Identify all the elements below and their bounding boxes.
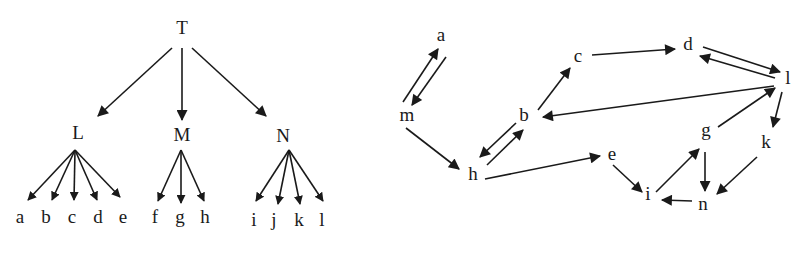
graph-edge-h-to-e	[485, 156, 600, 179]
graph-node-n: n	[698, 193, 708, 214]
tree-edge-arrow	[181, 150, 204, 201]
diagram-canvas: TLMNabcdefghijkl amhbcdlgkein	[0, 0, 799, 255]
graph-node-l: l	[785, 67, 790, 88]
tree-node-i: i	[251, 209, 256, 230]
graph-edge-e-to-i	[613, 165, 642, 192]
graph-edge-g-to-l	[718, 88, 775, 127]
graph-node-g: g	[701, 119, 711, 140]
graph-node-e: e	[608, 143, 616, 164]
tree-node-e: e	[119, 206, 127, 227]
tree-node-h: h	[200, 206, 210, 227]
graph-edge-b-to-h	[480, 123, 516, 157]
tree-node-b: b	[41, 206, 51, 227]
graph-node-k: k	[761, 131, 771, 152]
tree-edge-arrow	[52, 150, 75, 200]
tree-node-l: l	[319, 209, 324, 230]
tree-node-c: c	[68, 206, 76, 227]
graph-edge-m-to-h	[406, 128, 459, 169]
tree-node-d: d	[93, 206, 103, 227]
tree-node-k: k	[294, 209, 304, 230]
tree-node-a: a	[16, 206, 25, 227]
tree-node-M: M	[174, 124, 191, 145]
tree-node-g: g	[175, 206, 185, 227]
tree-node-T: T	[176, 17, 188, 38]
graph-edge-k-to-n	[717, 157, 757, 194]
graph-edge-b-to-c	[538, 68, 570, 110]
tree-edge-arrow	[192, 48, 266, 116]
graph-node-m: m	[400, 104, 415, 125]
graph-edge-h-to-b	[487, 130, 523, 165]
tree-edge-arrow	[75, 150, 120, 197]
graph-edge-c-to-d	[592, 49, 675, 55]
tree-node-L: L	[72, 122, 84, 143]
tree-edge-arrow	[75, 150, 97, 200]
tree-node-f: f	[152, 206, 159, 227]
tree-edge-arrow	[98, 48, 172, 116]
graph-node-a: a	[437, 24, 446, 45]
directed-graph: amhbcdlgkein	[400, 24, 791, 214]
graph-node-i: i	[645, 183, 650, 204]
tree-node-j: j	[270, 209, 276, 230]
graph-edges	[403, 47, 782, 201]
graph-edge-l-to-k	[773, 92, 782, 127]
tree-edge-arrow	[74, 150, 75, 200]
tree-edge-arrow	[158, 150, 181, 201]
tree-edge-arrow	[28, 150, 75, 200]
graph-edge-i-to-g	[656, 149, 699, 192]
graph-edge-n-to-i	[662, 200, 692, 201]
graph-node-c: c	[574, 45, 582, 66]
tree-node-N: N	[276, 125, 290, 146]
graph-node-h: h	[468, 163, 478, 184]
graph-node-b: b	[519, 104, 529, 125]
graph-node-d: d	[683, 33, 693, 54]
